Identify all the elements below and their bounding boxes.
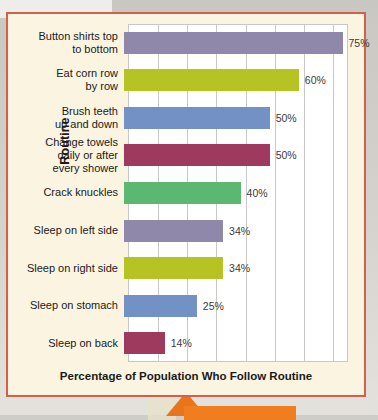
bar-row: Eat corn rowby row60% (8, 62, 348, 100)
bar (124, 257, 223, 279)
bar-row: Sleep on back14% (8, 324, 348, 362)
bar-row: Crack knuckles40% (8, 174, 348, 212)
category-label: Sleep on stomach (8, 299, 124, 312)
bar-track: 40% (124, 174, 348, 212)
bar (124, 69, 299, 91)
bar-value-label: 50% (276, 149, 297, 161)
bar-value-label: 34% (229, 225, 250, 237)
bar-row: Brush teethup and down50% (8, 99, 348, 137)
x-axis-title: Percentage of Population Who Follow Rout… (8, 370, 364, 382)
category-label-line: Sleep on back (8, 337, 118, 350)
bar-value-label: 40% (247, 187, 268, 199)
bar-value-label: 60% (305, 74, 326, 86)
bar (124, 332, 165, 354)
category-label-line: Crack knuckles (8, 186, 118, 199)
bar (124, 107, 270, 129)
bar-value-label: 34% (229, 262, 250, 274)
bar-row: Sleep on left side34% (8, 212, 348, 250)
bar-track: 50% (124, 137, 348, 175)
bar (124, 144, 270, 166)
bar-row: Sleep on right side34% (8, 249, 348, 287)
category-label-line: by row (8, 80, 118, 93)
bar (124, 295, 197, 317)
category-label-line: Eat corn row (8, 67, 118, 80)
bar-track: 60% (124, 62, 348, 100)
category-label: Button shirts topto bottom (8, 30, 124, 56)
bar-track: 34% (124, 212, 348, 250)
bar-track: 34% (124, 249, 348, 287)
category-label: Sleep on left side (8, 224, 124, 237)
category-label: Sleep on right side (8, 262, 124, 275)
bar (124, 32, 343, 54)
bar-row: Change towelsdaily or afterevery shower5… (8, 137, 348, 175)
category-label-line: Sleep on left side (8, 224, 118, 237)
bar-row: Button shirts topto bottom75% (8, 24, 348, 62)
chart-figure: Routine Button shirts topto bottom75%Eat… (6, 12, 366, 397)
category-label-line: Button shirts top (8, 30, 118, 43)
category-label: Change towelsdaily or afterevery shower (8, 136, 124, 175)
category-label-line: up and down (8, 118, 118, 131)
bar-track: 25% (124, 287, 348, 325)
category-label: Sleep on back (8, 337, 124, 350)
category-label-line: Sleep on right side (8, 262, 118, 275)
category-label-line: to bottom (8, 43, 118, 56)
bar-value-label: 25% (203, 300, 224, 312)
category-label: Brush teethup and down (8, 105, 124, 131)
category-label-line: daily or after (8, 149, 118, 162)
category-label-line: Brush teeth (8, 105, 118, 118)
bar-value-label: 75% (349, 37, 370, 49)
category-label: Eat corn rowby row (8, 67, 124, 93)
bar-rows: Button shirts topto bottom75%Eat corn ro… (8, 24, 348, 362)
bar-value-label: 50% (276, 112, 297, 124)
callout-bar (184, 406, 296, 420)
category-label-line: Change towels (8, 136, 118, 149)
category-label-line: Sleep on stomach (8, 299, 118, 312)
bar-value-label: 14% (171, 337, 192, 349)
bar (124, 182, 241, 204)
bar-row: Sleep on stomach25% (8, 287, 348, 325)
bar (124, 220, 223, 242)
category-label: Crack knuckles (8, 186, 124, 199)
bar-track: 14% (124, 324, 348, 362)
category-label-line: every shower (8, 162, 118, 175)
bar-track: 75% (124, 24, 370, 62)
bar-track: 50% (124, 99, 348, 137)
